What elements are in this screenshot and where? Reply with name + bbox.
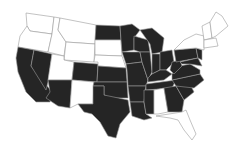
state-sd[interactable] — [95, 40, 122, 56]
state-nd[interactable] — [95, 25, 121, 40]
state-ma-ct-ri[interactable] — [204, 38, 218, 48]
state-ar[interactable] — [128, 86, 146, 102]
state-wy[interactable] — [64, 42, 95, 62]
state-az[interactable] — [46, 80, 72, 108]
state-ms[interactable] — [144, 90, 154, 114]
state-fl[interactable] — [156, 110, 196, 140]
state-ny[interactable] — [174, 34, 204, 50]
us-map — [0, 0, 237, 156]
state-ks[interactable] — [97, 66, 127, 82]
state-co[interactable] — [72, 62, 98, 82]
state-me[interactable] — [210, 12, 228, 38]
